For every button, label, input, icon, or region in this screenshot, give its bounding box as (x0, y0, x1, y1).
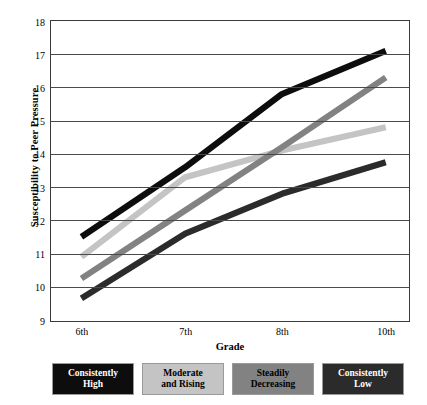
chart-container: Susceptibility to Peer Pressure 18171615… (0, 0, 427, 405)
y-axis-tick-label: 11 (6, 249, 50, 260)
y-axis-tick-labels: 1817161514131211109 (0, 0, 50, 405)
gridline (51, 187, 409, 188)
gridline (51, 220, 409, 221)
legend-item-1[interactable]: ConsistentlyHigh (52, 363, 134, 395)
legend-item-label-line1: Steadily (257, 368, 290, 379)
y-axis-tick-label: 15 (6, 116, 50, 127)
legend-item-label-line1: Consistently (68, 368, 118, 379)
legend-item-label-line2: and Rising (161, 379, 205, 390)
y-axis-tick-label: 12 (6, 215, 50, 226)
x-axis-title: Grade (50, 341, 410, 352)
gridline (51, 121, 409, 122)
legend-item-label-line2: Decreasing (251, 379, 296, 390)
y-axis-tick-label: 17 (6, 49, 50, 60)
series-lines (51, 21, 409, 320)
y-axis-tick-label: 13 (6, 182, 50, 193)
y-axis-tick-label: 10 (6, 282, 50, 293)
gridline (51, 154, 409, 155)
y-axis-tick-label: 14 (6, 149, 50, 160)
series-line (81, 162, 385, 298)
gridline (51, 87, 409, 88)
series-line (81, 127, 385, 257)
legend-item-2[interactable]: Moderateand Rising (142, 363, 224, 395)
legend-item-label-line1: Moderate (163, 368, 203, 379)
plot-area (50, 20, 410, 322)
series-line (81, 51, 385, 237)
y-axis-tick-label: 9 (6, 315, 50, 326)
legend-item-label-line1: Consistently (338, 368, 388, 379)
y-axis-tick-label: 16 (6, 82, 50, 93)
legend-item-label-line2: Low (354, 379, 372, 390)
x-axis-tick-label: 6th (52, 326, 112, 337)
legend-item-label-line2: High (83, 379, 103, 390)
legend-item-3[interactable]: SteadilyDecreasing (232, 363, 314, 395)
x-axis-tick-label: 10th (356, 326, 416, 337)
chart-legend: ConsistentlyHighModerateand RisingSteadi… (52, 363, 404, 397)
y-axis-tick-label: 18 (6, 16, 50, 27)
x-axis-tick-label: 7th (156, 326, 216, 337)
gridline (51, 54, 409, 55)
gridline (51, 287, 409, 288)
gridline (51, 254, 409, 255)
legend-item-4[interactable]: ConsistentlyLow (322, 363, 404, 395)
x-axis-tick-label: 8th (252, 326, 312, 337)
